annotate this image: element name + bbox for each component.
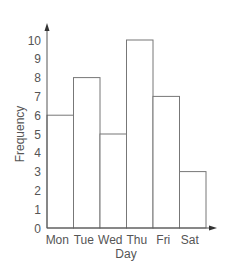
x-tick-label: Fri — [156, 233, 170, 247]
bar-sat — [180, 172, 207, 228]
y-tick-label: 9 — [34, 52, 41, 66]
x-tick-label: Sat — [181, 233, 200, 247]
bar-fri — [153, 96, 180, 228]
bar-thu — [127, 40, 154, 228]
x-tick-label: Thu — [126, 233, 147, 247]
y-tick-label: 8 — [34, 71, 41, 85]
x-axis-ticks: MonTueWedThuFriSat — [46, 233, 200, 247]
y-tick-label: 10 — [28, 34, 42, 48]
y-tick-label: 2 — [34, 184, 41, 198]
y-axis-arrow-icon — [45, 23, 50, 31]
bars-group — [47, 40, 206, 228]
frequency-bar-chart: 012345678910 MonTueWedThuFriSat Frequenc… — [0, 0, 229, 271]
x-axis-arrow-icon — [209, 226, 217, 231]
x-axis-label: Day — [115, 247, 136, 261]
y-tick-label: 3 — [34, 165, 41, 179]
y-tick-label: 7 — [34, 90, 41, 104]
y-axis-ticks: 012345678910 — [28, 34, 42, 236]
y-tick-label: 4 — [34, 146, 41, 160]
bar-mon — [47, 115, 74, 228]
y-tick-label: 0 — [34, 222, 41, 236]
bar-tue — [74, 78, 101, 228]
y-tick-label: 1 — [34, 203, 41, 217]
x-tick-label: Wed — [98, 233, 122, 247]
x-tick-label: Tue — [74, 233, 95, 247]
y-tick-label: 5 — [34, 128, 41, 142]
x-tick-label: Mon — [46, 233, 69, 247]
y-axis-label: Frequency — [13, 106, 27, 163]
bar-wed — [100, 134, 127, 228]
y-tick-label: 6 — [34, 109, 41, 123]
